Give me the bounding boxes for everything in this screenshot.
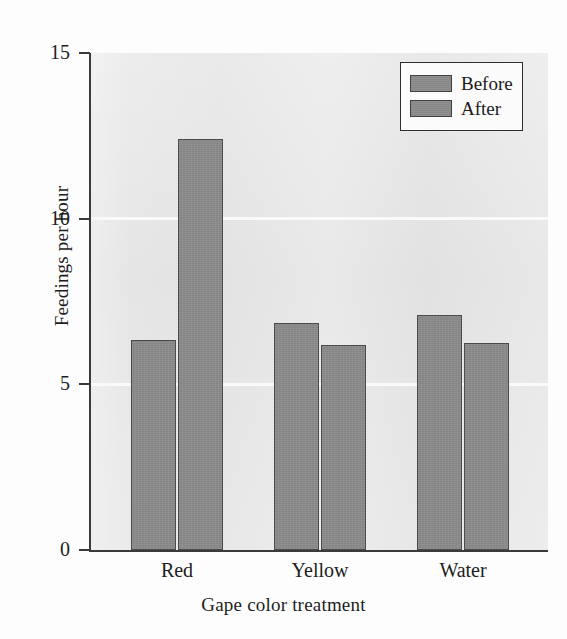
- bar-water-before: [417, 315, 462, 550]
- y-tick-label-5: 5: [10, 373, 70, 393]
- x-axis-title: Gape color treatment: [0, 594, 567, 616]
- legend-item-before: Before: [410, 71, 513, 96]
- x-tick-label-yellow: Yellow: [250, 558, 390, 582]
- legend-swatch-before: [410, 75, 452, 92]
- y-tick-label-10: 10: [10, 208, 70, 228]
- bar-red-before: [131, 340, 176, 550]
- bar-yellow-after: [321, 345, 366, 550]
- y-axis-title: Feedings per hour: [51, 116, 73, 396]
- gridline-10: [90, 217, 548, 220]
- bar-red-after: [178, 139, 223, 550]
- legend-item-after: After: [410, 96, 513, 121]
- y-tick-label-15: 15: [10, 42, 70, 62]
- bar-chart-figure: Feedings per hour 15 10 5 0 Red Yellow W…: [0, 0, 567, 639]
- chart-legend: Before After: [400, 62, 523, 131]
- legend-swatch-after: [410, 100, 452, 117]
- y-axis-line: [89, 53, 91, 551]
- y-tick-label-0: 0: [10, 539, 70, 559]
- x-tick-label-water: Water: [393, 558, 533, 582]
- bar-water-after: [464, 343, 509, 550]
- legend-label-after: After: [461, 99, 501, 118]
- legend-label-before: Before: [461, 74, 513, 93]
- x-axis-line: [89, 550, 548, 552]
- bar-yellow-before: [274, 323, 319, 550]
- x-tick-label-red: Red: [107, 558, 247, 582]
